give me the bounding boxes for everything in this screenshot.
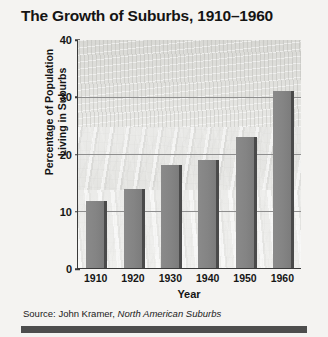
bottom-rule	[21, 326, 307, 333]
bar-1930	[161, 165, 182, 268]
x-tick-label-1910: 1910	[76, 272, 116, 284]
x-tick-label-1930: 1930	[150, 272, 190, 284]
x-tick-label-1960: 1960	[262, 272, 302, 284]
plot-wrapper	[77, 40, 301, 269]
bar-1940	[198, 160, 219, 268]
bar-1950	[236, 137, 257, 268]
chart-figure: The Growth of Suburbs, 1910–1960 40 30 2…	[0, 0, 328, 337]
y-tick-label-0: 0	[38, 263, 72, 275]
x-tick-label-1940: 1940	[188, 272, 228, 284]
source-publication-title: North American Suburbs	[118, 308, 222, 319]
x-axis-tick-labels: 191019201930194019501960	[77, 272, 301, 288]
x-tick-label-1920: 1920	[113, 272, 153, 284]
plot-area	[77, 40, 301, 269]
y-axis-title-line2: Living in Suburbs	[56, 12, 69, 212]
y-axis-title-line1: Percentage of Population	[43, 12, 56, 212]
bar-1960	[273, 91, 294, 268]
source-note: Source: John Kramer, North American Subu…	[23, 308, 221, 319]
bar-1910	[86, 201, 107, 268]
bars-layer	[78, 40, 301, 268]
bar-1920	[124, 189, 145, 268]
source-prefix: Source: John Kramer,	[23, 308, 118, 319]
x-axis-title: Year	[77, 288, 301, 300]
y-axis-title: Percentage of Population Living in Subur…	[43, 12, 69, 212]
x-tick-label-1950: 1950	[225, 272, 265, 284]
